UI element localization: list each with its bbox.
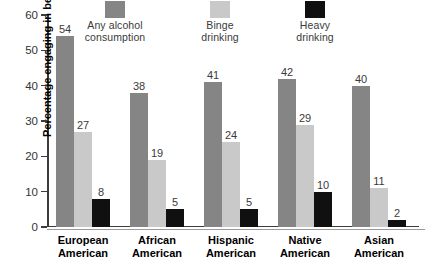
bar: 40 — [352, 86, 370, 227]
bar-value-label: 2 — [394, 207, 400, 219]
bar-group: 41245Hispanic American — [204, 15, 258, 227]
bar: 8 — [92, 199, 110, 227]
bar-group: 40112Asian American — [352, 15, 406, 227]
y-tick — [41, 226, 47, 228]
category-label: European American — [58, 234, 109, 259]
bar: 11 — [370, 188, 388, 227]
bar-value-label: 24 — [225, 129, 237, 141]
bar-group: 54278European American — [56, 15, 110, 227]
bar-value-label: 42 — [281, 66, 293, 78]
bar: 38 — [130, 93, 148, 227]
bar-chart: Any alcohol consumption Binge drinking H… — [0, 0, 430, 275]
y-tick — [41, 50, 47, 52]
bar-group: 38195African American — [130, 15, 184, 227]
bar: 2 — [388, 220, 406, 227]
plot-area: Percentage engaging in behavior 01020304… — [47, 15, 419, 227]
y-axis-title: Percentage engaging in behavior — [41, 0, 53, 137]
bar-value-label: 40 — [355, 73, 367, 85]
bar-value-label: 11 — [373, 175, 384, 187]
bar-value-label: 19 — [151, 147, 163, 159]
bar: 41 — [204, 82, 222, 227]
y-tick-label: 0 — [32, 221, 38, 233]
bar: 10 — [314, 192, 332, 227]
bar: 54 — [56, 36, 74, 227]
bar-value-label: 54 — [59, 23, 71, 35]
bar: 5 — [166, 209, 184, 227]
y-tick-label: 40 — [25, 80, 38, 92]
y-tick-label: 50 — [25, 44, 38, 56]
bar: 24 — [222, 142, 240, 227]
bar: 42 — [278, 79, 296, 227]
bar-value-label: 10 — [317, 179, 329, 191]
bar-group: 422910Native American — [278, 15, 332, 227]
bar-value-label: 27 — [77, 119, 89, 131]
bar: 29 — [296, 125, 314, 227]
category-label: Hispanic American — [206, 234, 256, 259]
category-label: African American — [132, 234, 182, 259]
bar-value-label: 29 — [299, 112, 311, 124]
bar-value-label: 5 — [246, 196, 252, 208]
category-label: Native American — [280, 234, 330, 259]
category-label: Asian American — [354, 234, 404, 259]
bar-value-label: 38 — [133, 80, 145, 92]
bar-value-label: 8 — [98, 186, 104, 198]
bar-value-label: 41 — [207, 69, 219, 81]
y-tick-label: 60 — [25, 9, 38, 21]
y-tick-label: 20 — [25, 150, 38, 162]
y-tick — [41, 156, 47, 158]
y-tick — [41, 120, 47, 122]
y-tick — [41, 85, 47, 87]
bar: 19 — [148, 160, 166, 227]
y-tick-label: 30 — [25, 115, 38, 127]
bar-value-label: 5 — [172, 196, 178, 208]
bar: 5 — [240, 209, 258, 227]
bottom-rule — [47, 229, 425, 230]
y-tick-label: 10 — [25, 186, 38, 198]
y-tick — [41, 191, 47, 193]
y-tick — [41, 14, 47, 16]
bar: 27 — [74, 132, 92, 227]
